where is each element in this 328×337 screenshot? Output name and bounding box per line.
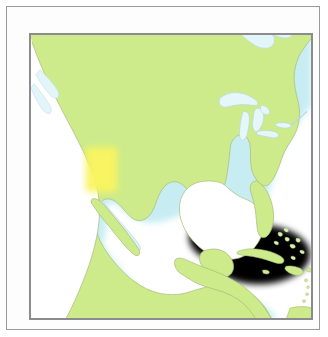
- south-america-sliver: [286, 307, 312, 319]
- map-frame[interactable]: [29, 33, 313, 320]
- page-border: [6, 6, 320, 330]
- island-jamaica: [262, 270, 269, 274]
- map-canvas[interactable]: [30, 34, 312, 319]
- highlighted-area[interactable]: [86, 147, 118, 192]
- map-page: [0, 0, 328, 337]
